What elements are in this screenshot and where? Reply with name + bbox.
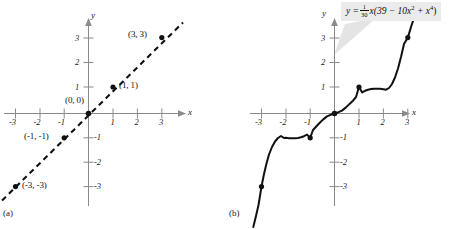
- x-tick-label-b-4: 2: [381, 117, 385, 127]
- y-axis-arrow-b: [331, 18, 338, 26]
- equation-leader-wedge: [334, 18, 376, 55]
- marker-point-b-neg1-neg1: [308, 135, 313, 140]
- plot-area-a: [0, 0, 226, 229]
- x-tick-label-b-3: 1: [357, 117, 361, 127]
- identity-line-dashed: [2, 23, 183, 201]
- marker-point-b-0-0: [332, 111, 338, 117]
- x-axis-label-a: x: [188, 107, 192, 117]
- point-label-3-3: (3, 3): [128, 29, 147, 39]
- x-tick-label-a-5: 3: [159, 117, 163, 127]
- point-label-neg1-neg1: (-1, -1): [24, 131, 49, 141]
- figure-panel-b: -3 -2 -1 1 2 3 3 2 1 -1 -2 -3 x y y =130…: [226, 0, 453, 229]
- point-label-neg3-neg3: (-3, -3): [22, 180, 47, 190]
- y-axis-label-b: y: [322, 8, 326, 18]
- x-tick-label-b-5: 3: [405, 117, 409, 127]
- equation-rhs-b: + x: [415, 6, 430, 16]
- y-tick-label-b-3: -1: [340, 132, 347, 142]
- marker-point-0-0: [86, 111, 92, 117]
- marker-point-1-1: [110, 84, 115, 89]
- plot-area-b: [226, 0, 453, 229]
- figure-panel-a: -3 -2 -1 1 2 3 3 2 1 -1 -2 -3 x y (3, 3)…: [0, 0, 226, 229]
- equation-fraction: 130: [360, 4, 369, 18]
- x-axis-label-b: x: [412, 107, 416, 117]
- equation-frac-denominator: 30: [360, 11, 369, 18]
- point-label-1-1: (1, 1): [119, 80, 138, 90]
- marker-point-neg1-neg1: [62, 135, 67, 140]
- plot-svg-b: [226, 0, 453, 229]
- equation-frac-numerator: 1: [360, 4, 369, 11]
- panel-tag-b: (b): [229, 208, 240, 218]
- x-tick-label-a-4: 2: [135, 117, 139, 127]
- marker-point-b-neg3-neg3: [259, 184, 264, 189]
- y-tick-label-a-2: 1: [75, 82, 79, 92]
- x-tick-label-a-1: -2: [34, 117, 41, 127]
- x-tick-label-a-2: -1: [58, 117, 65, 127]
- equation-callout: y =130x(39 − 10x2 + x4): [341, 2, 441, 21]
- x-axis-arrow-a: [178, 110, 186, 117]
- y-tick-label-b-5: -3: [340, 181, 347, 191]
- equation-rhs-c: ): [433, 6, 436, 16]
- marker-point-b-3-3: [405, 35, 410, 40]
- y-tick-label-a-0: 3: [75, 33, 79, 43]
- point-label-0-0: (0, 0): [65, 95, 84, 105]
- y-tick-label-a-5: -3: [94, 181, 101, 191]
- x-tick-label-a-0: -3: [9, 117, 16, 127]
- equation-lhs: y =: [346, 6, 359, 16]
- marker-point-b-1-1: [356, 84, 361, 89]
- plot-svg-a: [0, 0, 226, 229]
- marker-point-neg3-neg3: [13, 184, 18, 189]
- y-tick-label-b-0: 3: [321, 33, 325, 43]
- x-axis-arrow-b: [402, 110, 410, 117]
- marker-point-3-3: [159, 35, 164, 40]
- y-tick-label-b-2: 1: [321, 82, 325, 92]
- x-tick-label-b-0: -3: [255, 117, 262, 127]
- y-tick-label-b-1: 2: [321, 57, 325, 67]
- x-tick-label-a-3: 1: [111, 117, 115, 127]
- panel-tag-a: (a): [3, 208, 13, 218]
- x-tick-label-b-2: -1: [304, 117, 311, 127]
- y-axis-label-a: y: [91, 10, 95, 20]
- equation-rhs-a: x(39 − 10x: [370, 6, 412, 16]
- x-tick-label-b-1: -2: [280, 117, 287, 127]
- y-tick-label-b-4: -2: [340, 157, 347, 167]
- y-tick-label-a-1: 2: [75, 57, 79, 67]
- y-tick-label-a-3: -1: [94, 132, 101, 142]
- y-tick-label-a-4: -2: [94, 157, 101, 167]
